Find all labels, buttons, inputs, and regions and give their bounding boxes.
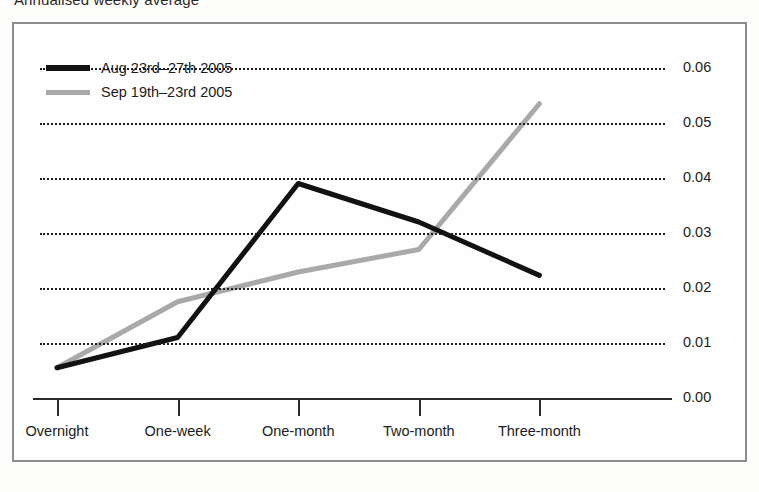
legend-label-series-2: Sep 19th–23rd 2005 (101, 84, 232, 100)
chart-title: Annualised weekly average (14, 0, 199, 8)
chart-legend: Aug 23rd–27th 2005 Sep 19th–23rd 2005 (46, 56, 232, 104)
legend-item-series-2: Sep 19th–23rd 2005 (46, 80, 232, 104)
legend-swatch-series-2 (46, 90, 90, 95)
legend-swatch-series-1 (46, 65, 90, 71)
legend-item-series-1: Aug 23rd–27th 2005 (46, 56, 232, 80)
legend-label-series-1: Aug 23rd–27th 2005 (101, 60, 232, 76)
